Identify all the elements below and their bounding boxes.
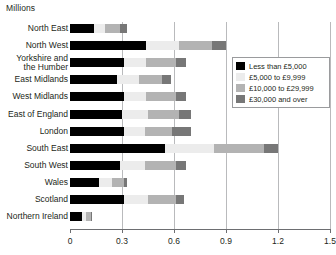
x-axis-tick-label: 0 <box>68 236 73 246</box>
legend-label: £10,000 to £29,999 <box>249 84 314 93</box>
bar-segment <box>124 178 127 187</box>
bar-segment <box>146 58 175 67</box>
x-axis-tick-label: 0.3 <box>116 236 128 246</box>
bar-segment <box>124 127 145 136</box>
bar-segment <box>117 75 140 84</box>
stacked-bar <box>70 212 92 221</box>
bar-segment <box>70 41 146 50</box>
bar-segment <box>70 75 117 84</box>
x-axis-tick <box>122 229 123 233</box>
bar-segment <box>124 58 147 67</box>
bar-segment <box>145 127 173 136</box>
bar-segment <box>70 58 124 67</box>
bar-segment <box>122 110 148 119</box>
x-axis-tick <box>174 229 175 233</box>
bar-segment <box>105 24 121 33</box>
x-axis-tick <box>330 229 331 233</box>
bar-segment <box>179 41 212 50</box>
category-label: Yorkshire and the Humber <box>16 54 68 73</box>
stacked-bar <box>70 195 184 204</box>
bar-segment <box>112 178 124 187</box>
bar-segment <box>165 144 214 153</box>
category-label: North East <box>28 24 68 34</box>
legend-item: £5,000 to £9,999 <box>236 72 326 82</box>
value-axis-title: Millions <box>6 3 35 13</box>
bar-segment <box>70 178 99 187</box>
bar-segment <box>99 178 111 187</box>
category-label: Wales <box>45 178 68 188</box>
bar-segment <box>70 127 124 136</box>
bar-segment <box>124 195 148 204</box>
category-label: East of England <box>8 110 68 120</box>
legend-swatch-icon <box>236 62 245 70</box>
category-label: London <box>40 127 68 137</box>
category-label: South West <box>24 161 68 171</box>
bar-segment <box>124 92 147 101</box>
bar-segment <box>176 58 186 67</box>
category-label: East Midlands <box>15 75 68 85</box>
bar-segment <box>264 144 278 153</box>
bar-segment <box>146 41 179 50</box>
stacked-bar <box>70 110 191 119</box>
legend-label: Less than £5,000 <box>249 62 307 71</box>
x-axis-tick <box>70 229 71 233</box>
bar-segment <box>172 127 191 136</box>
stacked-bar <box>70 58 186 67</box>
legend-item: £10,000 to £29,999 <box>236 83 326 93</box>
bar-segment <box>70 24 94 33</box>
legend-label: £30,000 and over <box>249 95 307 104</box>
bar-segment <box>176 195 185 204</box>
bar-segment <box>176 92 186 101</box>
stacked-bar <box>70 178 127 187</box>
bar-segment <box>212 41 226 50</box>
gridline <box>330 22 331 229</box>
bar-segment <box>214 144 264 153</box>
legend-swatch-icon <box>236 95 245 103</box>
legend-label: £5,000 to £9,999 <box>249 73 305 82</box>
bar-segment <box>162 75 171 84</box>
bar-segment <box>176 161 186 170</box>
category-label: North West <box>26 41 68 51</box>
bar-segment <box>148 110 179 119</box>
category-label: Scotland <box>35 195 68 205</box>
stacked-bar <box>70 41 226 50</box>
gridline <box>278 22 279 229</box>
bar-segment <box>70 161 120 170</box>
legend-swatch-icon <box>236 84 245 92</box>
legend-swatch-icon <box>236 73 245 81</box>
bar-segment <box>70 195 124 204</box>
bar-segment <box>179 110 191 119</box>
x-axis-tick <box>226 229 227 233</box>
bar-segment <box>120 24 127 33</box>
stacked-bar <box>70 24 127 33</box>
category-label: South East <box>26 144 68 154</box>
category-label: West Midlands <box>12 92 68 102</box>
bar-segment <box>146 92 175 101</box>
stacked-bar <box>70 75 171 84</box>
stacked-bar <box>70 127 191 136</box>
stacked-bar <box>70 92 186 101</box>
stacked-bar <box>70 144 278 153</box>
x-axis-tick-label: 0.9 <box>220 236 232 246</box>
bar-segment <box>148 195 176 204</box>
x-axis-tick <box>278 229 279 233</box>
bar-segment <box>139 75 162 84</box>
x-axis-tick-label: 0.6 <box>168 236 180 246</box>
legend: Less than £5,000£5,000 to £9,999£10,000 … <box>232 57 330 108</box>
bar-segment <box>70 92 124 101</box>
bar-segment <box>94 24 104 33</box>
bar-segment <box>145 161 176 170</box>
gridline <box>226 22 227 229</box>
bar-segment <box>70 212 82 221</box>
x-axis-tick-label: 1.2 <box>272 236 284 246</box>
x-axis-line <box>70 229 330 230</box>
legend-item: Less than £5,000 <box>236 61 326 71</box>
legend-item: £30,000 and over <box>236 94 326 104</box>
x-axis-tick-label: 1.5 <box>324 236 336 246</box>
stacked-bar <box>70 161 186 170</box>
bar-segment <box>91 212 93 221</box>
category-label: Northern Ireland <box>7 212 68 222</box>
bar-segment <box>70 110 122 119</box>
bar-segment <box>70 144 165 153</box>
